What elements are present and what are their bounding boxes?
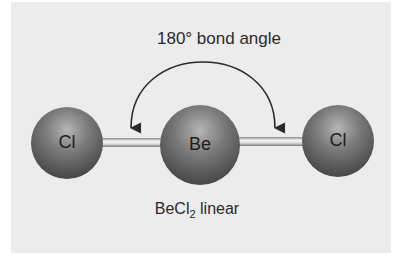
- formula-main: BeCl: [155, 200, 190, 217]
- shape-label: linear: [200, 200, 239, 217]
- bond-right: [236, 137, 306, 146]
- formula-subscript: 2: [189, 208, 195, 220]
- atom-label-cl-right: Cl: [308, 130, 368, 151]
- molecule-caption: BeCl2 linear: [0, 200, 394, 220]
- atom-label-be: Be: [170, 134, 230, 155]
- atom-label-cl-left: Cl: [37, 132, 97, 153]
- bond-angle-label: 180° bond angle: [0, 29, 394, 49]
- bond-left: [100, 138, 165, 147]
